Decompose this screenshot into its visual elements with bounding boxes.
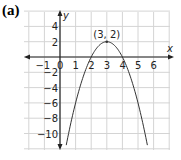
x-tick-label: 1 xyxy=(73,60,79,71)
parabola-chart: xy−1012345642−2−4−6−8−10(3, 2) xyxy=(0,0,181,160)
vertex-label: (3, 2) xyxy=(93,29,120,40)
y-tick-label: −10 xyxy=(37,129,58,140)
y-tick-label: 4 xyxy=(52,21,58,32)
y-tick-label: −8 xyxy=(43,113,58,124)
x-tick-label: 6 xyxy=(151,60,157,71)
x-axis-arrow-right-icon xyxy=(168,55,174,60)
y-axis-label: y xyxy=(62,10,70,21)
y-tick-label: −4 xyxy=(43,83,58,94)
x-axis-label: x xyxy=(166,43,173,54)
x-tick-label: 5 xyxy=(135,60,141,71)
y-tick-label: 2 xyxy=(52,37,58,48)
vertex-point xyxy=(106,40,109,43)
x-tick-label: 3 xyxy=(104,60,110,71)
x-axis-arrow-left-icon xyxy=(24,55,30,60)
y-tick-label: −6 xyxy=(43,98,58,109)
y-tick-label: −2 xyxy=(43,67,58,78)
